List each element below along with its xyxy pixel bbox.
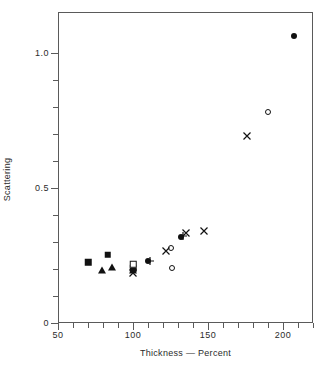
x-axis-label: Thickness — Percent — [58, 348, 313, 358]
x-tick-label: 200 — [275, 330, 292, 340]
data-point-open-square — [130, 261, 137, 268]
x-tick — [253, 323, 254, 328]
x-tick — [118, 323, 119, 328]
data-point-cross — [162, 247, 171, 256]
data-point-cross — [129, 268, 138, 277]
x-tick — [103, 323, 104, 328]
plot-area: 00.51.0 50100150200 — [58, 12, 313, 323]
y-tick — [53, 80, 58, 81]
y-axis-label-container: Scattering — [0, 12, 12, 323]
x-tick-label: 50 — [52, 330, 63, 340]
y-tick — [53, 134, 58, 135]
data-point-plus — [178, 231, 187, 240]
x-tick — [73, 323, 74, 328]
x-tick-label: 150 — [200, 330, 217, 340]
y-tick — [51, 323, 58, 324]
y-tick — [51, 53, 58, 54]
data-point-filled-circle — [291, 33, 297, 39]
data-point-open-circle — [265, 109, 271, 115]
scatter-plot-figure: Scattering Thickness — Percent 00.51.0 5… — [0, 0, 323, 366]
x-tick — [283, 323, 284, 330]
data-point-plus — [145, 257, 154, 266]
data-point-filled-triangle — [98, 266, 106, 273]
x-tick — [268, 323, 269, 328]
y-tick — [51, 188, 58, 189]
x-tick — [223, 323, 224, 328]
x-tick — [238, 323, 239, 328]
x-tick-label: 100 — [125, 330, 142, 340]
y-tick-label: 1.0 — [35, 48, 49, 58]
y-axis-label: Scattering — [2, 24, 14, 335]
y-tick — [53, 269, 58, 270]
x-tick — [88, 323, 89, 328]
data-point-filled-square — [104, 252, 111, 259]
data-point-cross — [243, 132, 252, 141]
data-point-filled-triangle — [108, 263, 116, 270]
x-tick — [208, 323, 209, 330]
x-tick — [193, 323, 194, 328]
y-tick — [53, 296, 58, 297]
x-tick — [148, 323, 149, 328]
y-tick-label: 0.5 — [35, 183, 49, 193]
y-tick — [53, 215, 58, 216]
y-tick — [53, 107, 58, 108]
x-tick — [178, 323, 179, 328]
y-tick-label: 0 — [43, 318, 49, 328]
data-point-open-circle — [169, 265, 175, 271]
x-tick — [163, 323, 164, 328]
x-tick — [58, 323, 59, 330]
y-tick — [53, 242, 58, 243]
data-point-filled-square — [85, 259, 92, 266]
data-point-cross — [199, 226, 208, 235]
y-tick — [53, 161, 58, 162]
x-tick — [313, 323, 314, 328]
x-tick — [298, 323, 299, 328]
x-tick — [133, 323, 134, 330]
